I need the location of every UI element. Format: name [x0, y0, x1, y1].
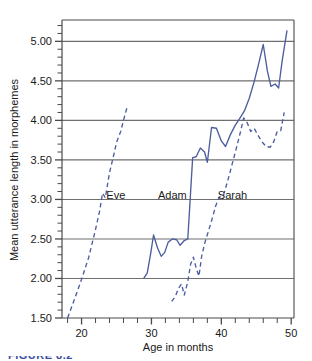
y-tick-label: 3.50: [31, 154, 52, 166]
y-tick-label: 4.50: [31, 75, 52, 87]
series-annotation-sarah: Sarah: [218, 189, 247, 201]
y-tick-label: 5.00: [31, 35, 52, 47]
figure-container: 20304050 1.502.002.503.003.504.004.505.0…: [0, 0, 312, 361]
x-tick-label: 30: [145, 327, 157, 339]
series-annotation-adam: Adam: [158, 189, 187, 201]
y-tick-label: 2.00: [31, 272, 52, 284]
x-axis-title: Age in months: [143, 341, 214, 353]
figure-caption-clipped: FIGURE 8.2: [8, 356, 128, 361]
series-annotation-eve: Eve: [106, 189, 125, 201]
y-axis-title: Mean utterance length in morphemes: [8, 78, 20, 261]
y-tick-label: 3.00: [31, 193, 52, 205]
x-tick-label: 50: [285, 327, 297, 339]
x-tick-label: 20: [75, 327, 87, 339]
y-tick-label: 1.50: [31, 312, 52, 324]
y-tick-label: 2.50: [31, 233, 52, 245]
y-tick-label: 4.00: [31, 114, 52, 126]
figure-caption-text: FIGURE 8.2: [8, 356, 73, 361]
x-tick-label: 40: [215, 327, 227, 339]
mlu-line-chart: 20304050 1.502.002.503.003.504.004.505.0…: [0, 0, 312, 361]
